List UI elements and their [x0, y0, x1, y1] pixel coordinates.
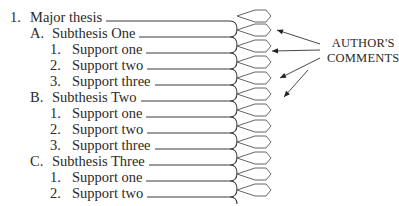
- arrow-icon: [280, 58, 320, 78]
- comment-diamond-icon: [230, 85, 271, 101]
- comment-diamond-icon: [230, 181, 271, 197]
- comment-diamond-icon: [230, 149, 271, 165]
- arrow-icon: [277, 29, 320, 44]
- comment-diamond-icon: [230, 117, 271, 133]
- comment-diamond-icon: [230, 133, 271, 149]
- comment-diamond-icon: [230, 197, 237, 204]
- comment-diamond-icon: [230, 101, 271, 117]
- comment-diamond-icon: [230, 21, 271, 37]
- comment-diamond-icon: [230, 37, 271, 53]
- comment-diamond-icon: [230, 165, 271, 181]
- comment-diamond-icon: [230, 53, 271, 69]
- arrow-icon: [272, 48, 320, 53]
- fill-in-lines: [106, 21, 230, 197]
- comment-diamonds: [230, 10, 271, 204]
- comment-diamond-icon: [230, 69, 271, 85]
- comment-arrows: [272, 29, 320, 97]
- comment-diamond-icon: [237, 10, 271, 22]
